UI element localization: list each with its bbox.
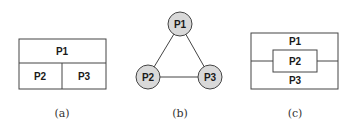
panel-b: P1 P2 P3 (b) bbox=[136, 12, 222, 120]
panel-c: P1 P2 P3 (c) bbox=[251, 33, 338, 120]
region-p2: P2 bbox=[289, 56, 302, 67]
cell-p2: P2 bbox=[34, 71, 47, 82]
caption-b: (b) bbox=[172, 107, 188, 120]
region-p1: P1 bbox=[289, 36, 302, 47]
cell-p3: P3 bbox=[78, 71, 91, 82]
cell-p1: P1 bbox=[56, 46, 69, 57]
figure: P1 P2 P3 (a) P1 P2 P3 (b) P1 P2 P3 (c) bbox=[0, 0, 356, 128]
caption-a: (a) bbox=[54, 107, 69, 120]
panel-a: P1 P2 P3 (a) bbox=[19, 39, 106, 120]
node-p1-label: P1 bbox=[174, 19, 187, 30]
caption-c: (c) bbox=[288, 107, 303, 120]
node-p2-label: P2 bbox=[142, 72, 155, 83]
node-p3-label: P3 bbox=[204, 72, 217, 83]
region-p3: P3 bbox=[289, 75, 302, 86]
